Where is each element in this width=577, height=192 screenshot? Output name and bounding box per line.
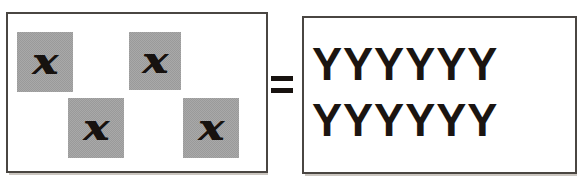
variable-tile: x xyxy=(183,98,239,158)
variable-tile: x xyxy=(17,32,73,92)
equals-sign-icon xyxy=(271,76,293,96)
y-unit-row: YYYYYY xyxy=(312,92,561,148)
variable-tile: x xyxy=(68,98,124,158)
right-expression-panel: YYYYYY YYYYYY xyxy=(302,16,577,174)
y-unit-row: YYYYYY xyxy=(312,36,561,92)
equals-bar-top xyxy=(271,76,293,81)
y-unit-stack: YYYYYY YYYYYY xyxy=(312,36,571,148)
variable-x-glyph: x xyxy=(142,41,167,79)
variable-x-glyph: x xyxy=(83,108,108,146)
left-expression-panel: x x x x xyxy=(6,12,268,173)
variable-x-glyph: x xyxy=(32,42,57,80)
variable-tile: x xyxy=(129,32,181,90)
equals-bar-bottom xyxy=(271,88,293,93)
variable-x-glyph: x xyxy=(198,108,223,146)
